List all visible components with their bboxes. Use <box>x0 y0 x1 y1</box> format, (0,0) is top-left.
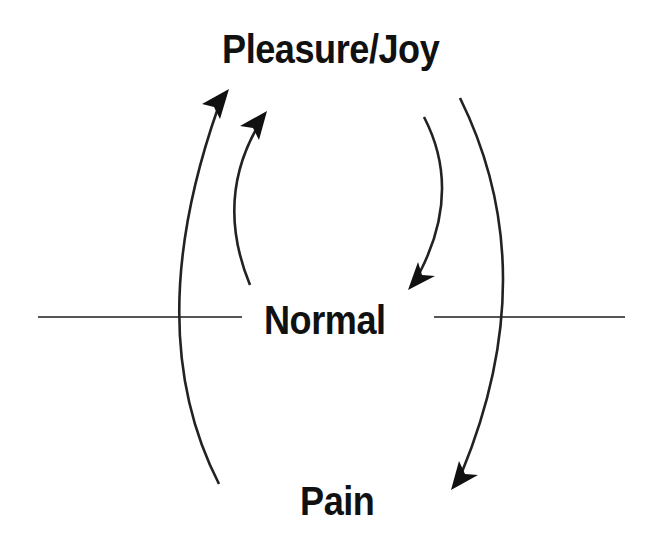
arrows-layer <box>0 0 653 540</box>
label-pain: Pain <box>300 478 374 525</box>
label-pleasure-joy: Pleasure/Joy <box>222 26 439 73</box>
diagram-canvas: Pleasure/Joy Normal Pain <box>0 0 653 540</box>
arrow-pleasure-to-pain <box>451 98 503 490</box>
arrow-pleasure-to-normal <box>408 117 442 290</box>
arrow-pain-to-pleasure <box>179 89 229 484</box>
label-normal: Normal <box>264 297 386 344</box>
arrow-normal-to-pleasure <box>234 111 267 285</box>
